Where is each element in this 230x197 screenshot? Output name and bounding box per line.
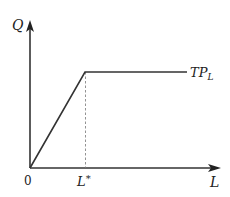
l-star-label: L* <box>76 173 91 189</box>
x-axis-label: L <box>209 174 219 190</box>
tp-curve <box>30 72 187 168</box>
y-axis-label: Q <box>12 17 24 33</box>
x-axis <box>30 164 221 172</box>
origin-label: 0 <box>24 174 32 188</box>
tp-curve-label: TPL <box>190 65 213 82</box>
chart-canvas: Q 0 L* L TPL <box>0 0 230 197</box>
y-axis <box>26 20 34 168</box>
